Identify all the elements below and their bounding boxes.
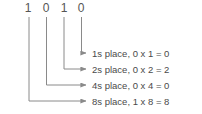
place-value-label-2s: 2s place, 0 x 2 = 2 <box>92 64 169 75</box>
place-value-labels: 1s place, 0 x 1 = 0 2s place, 0 x 2 = 2 … <box>0 0 202 114</box>
place-value-label-4s: 4s place, 0 x 4 = 0 <box>92 80 169 91</box>
place-value-label-8s: 8s place, 1 x 8 = 8 <box>92 96 169 107</box>
place-value-label-1s: 1s place, 0 x 1 = 0 <box>92 48 169 59</box>
binary-place-value-diagram: 1 0 1 0 1s place, 0 x 1 = 0 2s place, 0 … <box>0 0 202 114</box>
